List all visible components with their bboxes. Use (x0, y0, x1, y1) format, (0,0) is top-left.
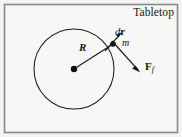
figure-title-tabletop: Tabletop (133, 7, 174, 19)
figure-diagram-canvas (0, 0, 182, 137)
physics-figure-tabletop: Tabletop R dr m Ff (0, 0, 182, 137)
mass-label: m (122, 38, 129, 48)
displacement-vector-label: dr (115, 27, 125, 38)
radius-vector-label: R (79, 42, 86, 53)
center-point-dot (71, 66, 77, 72)
force-subscript-glyph: f (152, 65, 154, 74)
friction-force-label: Ff (145, 61, 154, 74)
force-f-glyph: F (145, 60, 152, 72)
displacement-r-glyph: r (120, 26, 125, 37)
